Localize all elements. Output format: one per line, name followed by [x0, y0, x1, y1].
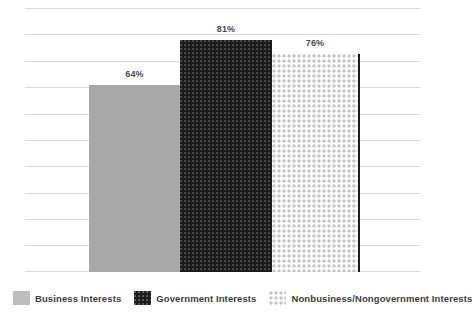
legend-item-government-interests: Government Interests [134, 291, 256, 305]
legend-swatch-government-icon [134, 291, 151, 305]
data-label-government-interests: 81% [180, 24, 272, 34]
legend-item-nonbusiness-nongovernment-interests: Nonbusiness/Nongovernment Interests [269, 291, 472, 305]
gridline [25, 8, 420, 9]
data-label-nonbusiness-nongovernment-interests: 76% [272, 38, 358, 48]
bar-business-interests [89, 85, 180, 272]
legend-label-nonbusiness-nongovernment-interests: Nonbusiness/Nongovernment Interests [291, 293, 472, 304]
chart-legend: Business Interests Government Interests … [0, 288, 429, 308]
plot-area: 64% 81% 76% [25, 8, 420, 272]
data-label-business-interests: 64% [89, 69, 180, 79]
legend-item-business-interests: Business Interests [13, 291, 121, 305]
gridline [25, 34, 420, 35]
legend-swatch-nonbusiness-icon [269, 291, 286, 305]
bar-nonbusiness-nongovernment-interests [272, 54, 360, 272]
legend-swatch-business-icon [13, 291, 30, 305]
bar-government-interests [180, 40, 272, 272]
legend-label-government-interests: Government Interests [156, 293, 256, 304]
legend-label-business-interests: Business Interests [35, 293, 121, 304]
